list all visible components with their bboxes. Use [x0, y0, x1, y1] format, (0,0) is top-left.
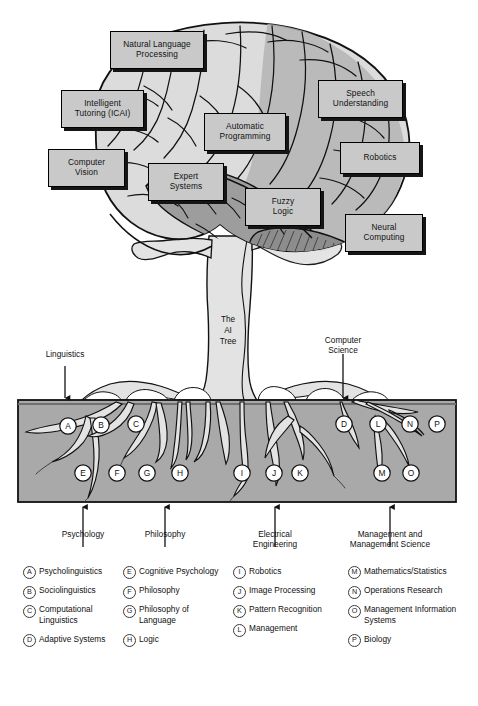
legend-item-label: Robotics [249, 566, 345, 577]
root-marker-n: N [402, 416, 418, 432]
root-marker-a: A [60, 418, 76, 434]
legend-item-label: Operations Research [364, 585, 470, 596]
root-marker-d: D [336, 416, 352, 432]
legend-key-badge: I [233, 566, 246, 579]
legend-key-badge: A [23, 566, 36, 579]
legend-item-label: Mathematics/Statistics [364, 566, 470, 577]
root-marker-j: J [266, 465, 282, 481]
legend-item-p: PBiology [348, 634, 470, 645]
root-marker-label: L [376, 419, 381, 429]
legend-key-badge: K [233, 605, 246, 618]
legend-key-badge: C [23, 605, 36, 618]
root-marker-label: D [341, 419, 347, 429]
legend-item-f: FPhilosophy [123, 585, 228, 596]
legend-column-2: ECognitive PsychologyFPhilosophyGPhiloso… [123, 566, 228, 653]
legend-item-l: LManagement [233, 623, 345, 634]
legend-item-label: Philosophy [139, 585, 228, 596]
legend-item-label: Pattern Recognition [249, 604, 345, 615]
ai-tree-diagram: Natural LanguageProcessing IntelligentTu… [0, 0, 478, 706]
legend-item-o: OManagement Information Systems [348, 604, 470, 625]
root-marker-o: O [403, 465, 419, 481]
root-marker-label: C [133, 419, 139, 429]
legend-item-b: BSociolinguistics [23, 585, 123, 596]
root-marker-label: J [272, 468, 276, 478]
legend-item-label: Logic [139, 634, 228, 645]
legend-column-3: IRoboticsJImage ProcessingKPattern Recog… [233, 566, 345, 642]
legend-key-badge: J [233, 586, 246, 599]
root-marker-m: M [374, 465, 390, 481]
legend-column-4: MMathematics/StatisticsNOperations Resea… [348, 566, 470, 653]
root-marker-b: B [93, 417, 109, 433]
root-marker-label: K [297, 468, 303, 478]
root-marker-c: C [128, 416, 144, 432]
legend-item-label: Image Processing [249, 585, 345, 596]
legend-item-label: Sociolinguistics [39, 585, 123, 596]
legend-key-badge: M [348, 566, 361, 579]
legend-item-label: Management [249, 623, 345, 634]
legend-key-badge: L [233, 624, 246, 637]
root-marker-label: O [408, 468, 415, 478]
legend-key-badge: P [348, 634, 361, 647]
legend-key-badge: G [123, 605, 136, 618]
legend-item-label: Biology [364, 634, 470, 645]
legend-item-c: CComputational Linguistics [23, 604, 123, 625]
legend-item-n: NOperations Research [348, 585, 470, 596]
legend-item-label: Cognitive Psychology [139, 566, 228, 577]
legend-key-badge: F [123, 586, 136, 599]
root-marker-p: P [429, 416, 445, 432]
root-marker-label: F [114, 468, 119, 478]
root-marker-i: I [234, 465, 250, 481]
root-marker-label: P [434, 419, 440, 429]
legend-key-badge: B [23, 586, 36, 599]
root-marker-label: H [177, 468, 183, 478]
root-marker-l: L [370, 416, 386, 432]
legend-item-k: KPattern Recognition [233, 604, 345, 615]
legend-item-j: JImage Processing [233, 585, 345, 596]
legend-item-d: DAdaptive Systems [23, 634, 123, 645]
root-marker-label: G [144, 468, 151, 478]
legend-item-m: MMathematics/Statistics [348, 566, 470, 577]
legend-item-label: Computational Linguistics [39, 604, 123, 625]
root-marker-label: N [407, 419, 413, 429]
legend-item-g: GPhilosophy of Language [123, 604, 228, 625]
legend-item-label: Management Information Systems [364, 604, 470, 625]
legend-item-i: IRobotics [233, 566, 345, 577]
root-marker-label: B [98, 420, 104, 430]
legend-key-badge: O [348, 605, 361, 618]
legend-column-1: APsycholinguisticsBSociolinguisticsCComp… [23, 566, 123, 653]
legend-item-label: Adaptive Systems [39, 634, 123, 645]
root-marker-label: E [80, 468, 86, 478]
legend-key-badge: D [23, 634, 36, 647]
root-marker-label: A [65, 421, 71, 431]
legend-key-badge: N [348, 586, 361, 599]
legend-key-badge: E [123, 566, 136, 579]
root-marker-f: F [109, 465, 125, 481]
legend-item-label: Philosophy of Language [139, 604, 228, 625]
root-marker-k: K [292, 465, 308, 481]
legend-key-badge: H [123, 634, 136, 647]
legend-item-a: APsycholinguistics [23, 566, 123, 577]
root-marker-e: E [75, 465, 91, 481]
legend-item-h: HLogic [123, 634, 228, 645]
legend-item-e: ECognitive Psychology [123, 566, 228, 577]
root-marker-label: I [241, 468, 243, 478]
legend: APsycholinguisticsBSociolinguisticsCComp… [0, 566, 478, 706]
legend-item-label: Psycholinguistics [39, 566, 123, 577]
root-marker-label: M [379, 468, 386, 478]
root-marker-g: G [139, 465, 155, 481]
root-marker-h: H [172, 465, 188, 481]
